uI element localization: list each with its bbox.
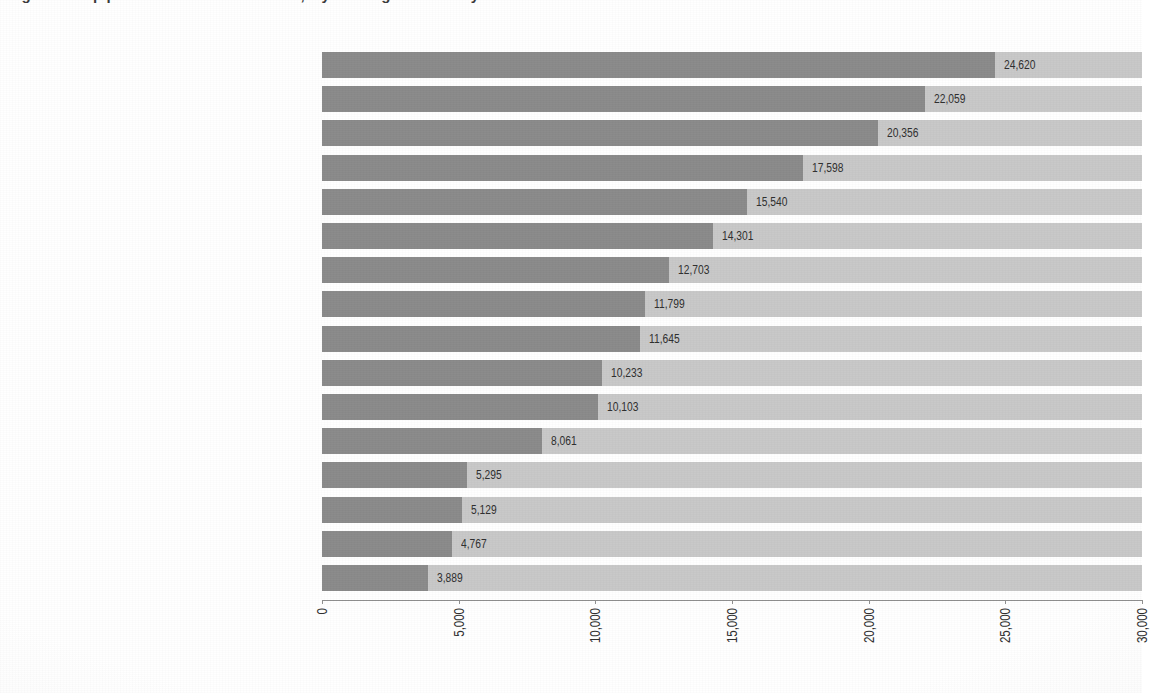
x-tick-label-6: 30,000 [1142,573,1154,608]
bar-row-track [322,120,1142,146]
bar-8[interactable] [322,291,645,317]
bar-row-track [322,326,1142,352]
bar-13[interactable] [322,462,467,488]
value-label-6: 14,301 [722,230,753,243]
bar-4[interactable] [322,155,803,181]
value-label-2: 22,059 [934,93,965,106]
value-label-9: 11,645 [649,333,680,346]
bar-16[interactable] [322,565,428,591]
value-label-3: 20,356 [887,127,918,140]
x-tick-label-4: 20,000 [869,573,883,608]
x-tick-label-5: 25,000 [1005,573,1019,608]
x-tick-label-2: 10,000 [595,573,609,608]
bar-row-track [322,189,1142,215]
bar-row-track [322,257,1142,283]
bar-row-track [322,394,1142,420]
value-label-13: 5,295 [476,469,502,482]
bar-10[interactable] [322,360,602,386]
value-label-10: 10,233 [611,367,642,380]
x-tick-label-text-0: 0 [315,608,329,614]
value-label-8: 11,799 [654,298,685,311]
value-label-14: 5,129 [471,504,497,517]
bar-row-track [322,360,1142,386]
bar-6[interactable] [322,223,713,249]
value-label-11: 10,103 [607,401,638,414]
bar-row-track [322,531,1142,557]
bar-15[interactable] [322,531,452,557]
bar-row-track [322,462,1142,488]
bar-row-track [322,155,1142,181]
value-label-12: 8,061 [551,435,577,448]
bar-2[interactable] [322,86,925,112]
bar-12[interactable] [322,428,542,454]
chart-title-text: Figure 1. Top priorities for a better wo… [8,0,533,3]
bar-5[interactable] [322,189,747,215]
x-tick-label-text-3: 15,000 [725,608,739,643]
x-tick-label-0: 0 [322,602,336,608]
x-tick-label-1: 5,000 [459,579,473,608]
bar-1[interactable] [322,52,995,78]
bar-7[interactable] [322,257,669,283]
x-tick-label-text-5: 25,000 [998,608,1012,643]
value-label-1: 24,620 [1004,59,1035,72]
bar-14[interactable] [322,497,462,523]
bar-row-track [322,428,1142,454]
x-tick-label-3: 15,000 [732,573,746,608]
value-label-7: 12,703 [678,264,709,277]
value-label-4: 17,598 [812,162,843,175]
value-label-5: 15,540 [756,196,787,209]
x-tick-label-text-4: 20,000 [862,608,876,643]
bar-row-track [322,497,1142,523]
x-tick-label-text-6: 30,000 [1135,608,1149,643]
bar-3[interactable] [322,120,878,146]
x-tick-label-text-1: 5,000 [452,608,466,637]
plot-area: Good education24,620Better job opportuni… [322,48,1142,600]
cropped-chart-title: Figure 1. Top priorities for a better wo… [0,0,1142,14]
x-tick-label-text-2: 10,000 [588,608,602,643]
value-label-15: 4,767 [461,538,487,551]
bar-row-track [322,86,1142,112]
bar-row-track [322,291,1142,317]
bar-11[interactable] [322,394,598,420]
bar-9[interactable] [322,326,640,352]
